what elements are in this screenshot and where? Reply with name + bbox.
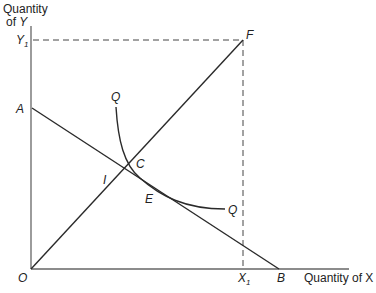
label-e: E xyxy=(145,192,154,206)
label-c: C xyxy=(136,157,145,171)
label-q-end: Q xyxy=(228,203,237,217)
label-x1: X1 xyxy=(237,271,250,287)
y-axis-title-line2: of Y xyxy=(6,15,28,29)
y-axis-title-line1: Quantity xyxy=(3,2,48,16)
x-axis-title: Quantity of X xyxy=(304,271,373,285)
budget-line-isoquant-diagram: Quantity of Y Quantity of X Y1 A F Q C I… xyxy=(0,0,376,293)
label-origin: O xyxy=(18,271,27,285)
ray-of xyxy=(31,40,243,269)
label-y1: Y1 xyxy=(16,33,28,49)
label-a: A xyxy=(15,102,24,116)
label-b: B xyxy=(277,271,285,285)
label-q-top: Q xyxy=(111,90,120,104)
budget-line-ab xyxy=(32,108,279,269)
isoquant-qq xyxy=(116,107,225,209)
label-i: I xyxy=(103,173,107,187)
label-f: F xyxy=(246,28,254,42)
